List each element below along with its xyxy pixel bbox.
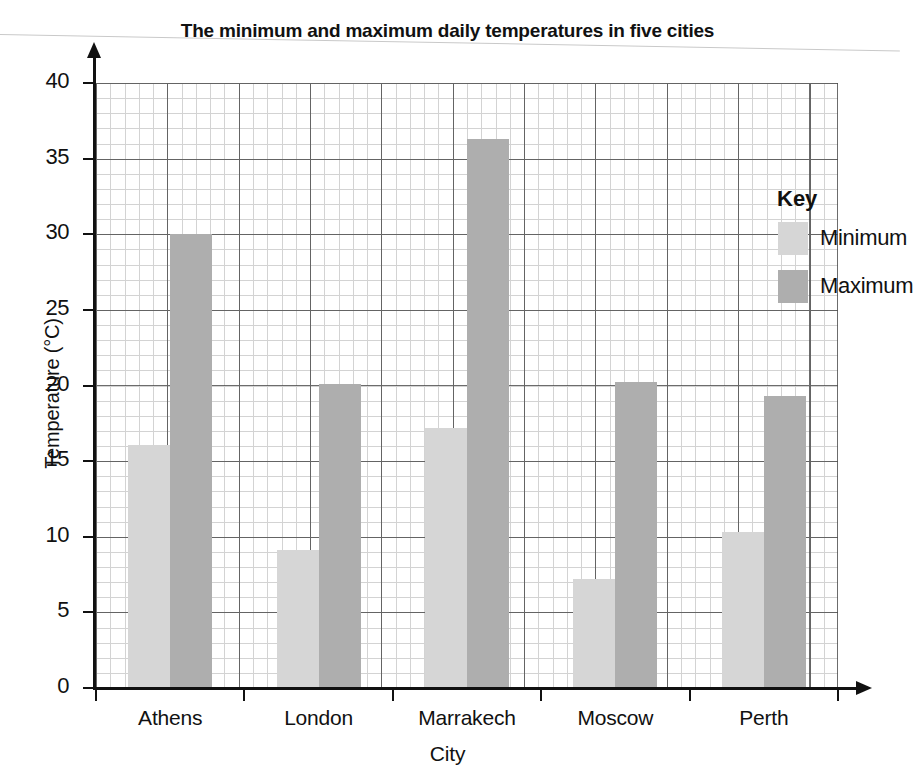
legend-label-maximum: Maximum: [820, 273, 913, 299]
y-tick-label: 5: [57, 597, 69, 623]
x-tick-mark: [540, 688, 542, 701]
x-tick-label: London: [244, 706, 392, 730]
y-tick-mark: [83, 309, 95, 311]
x-axis-arrow-icon: [856, 681, 872, 695]
x-axis-line: [93, 687, 858, 690]
x-tick-mark: [95, 688, 97, 701]
y-tick-mark: [83, 611, 95, 613]
x-axis-title: City: [0, 742, 895, 766]
legend-swatch-minimum: [778, 222, 808, 255]
y-tick-label: 30: [46, 219, 69, 245]
y-tick-mark: [83, 82, 95, 84]
x-tick-label: Athens: [96, 706, 244, 730]
bar-moscow-minimum: [573, 579, 615, 688]
bar-perth-maximum: [764, 396, 806, 688]
bar-marrakech-maximum: [467, 139, 509, 688]
y-tick-mark: [83, 158, 95, 160]
bar-london-minimum: [277, 550, 319, 688]
x-tick-mark: [243, 688, 245, 701]
y-tick-label: 40: [46, 68, 69, 94]
x-tick-label: Marrakech: [393, 706, 541, 730]
y-tick-mark: [83, 687, 95, 689]
x-tick-mark: [837, 688, 839, 701]
x-tick-label: Moscow: [541, 706, 689, 730]
bar-athens-minimum: [128, 445, 170, 689]
legend-title: Key: [777, 186, 817, 212]
bar-perth-minimum: [722, 532, 764, 688]
y-axis-line: [93, 55, 96, 690]
chart-title: The minimum and maximum daily temperatur…: [0, 20, 895, 42]
bar-london-maximum: [319, 384, 361, 688]
legend-label-minimum: Minimum: [820, 225, 907, 251]
y-tick-label: 35: [46, 144, 69, 170]
x-tick-mark: [689, 688, 691, 701]
y-tick-mark: [83, 536, 95, 538]
bar-marrakech-minimum: [425, 428, 467, 688]
y-axis-title: Temperature (°C): [41, 244, 64, 544]
bar-moscow-maximum: [615, 382, 657, 688]
y-tick-label: 0: [57, 673, 69, 699]
y-tick-mark: [83, 460, 95, 462]
y-tick-mark: [83, 385, 95, 387]
y-axis-arrow-icon: [87, 42, 101, 58]
bar-athens-maximum: [170, 234, 212, 688]
x-tick-mark: [392, 688, 394, 701]
plot-area: Key MinimumMaximum: [96, 83, 838, 688]
y-tick-mark: [83, 233, 95, 235]
x-tick-label: Perth: [690, 706, 838, 730]
plot-right-border: [837, 83, 838, 688]
legend-swatch-maximum: [778, 270, 808, 303]
